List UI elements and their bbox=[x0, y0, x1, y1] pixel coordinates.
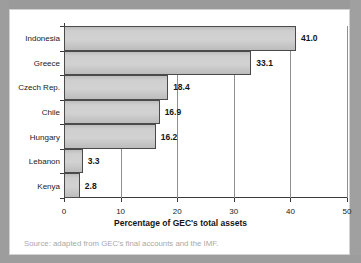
surround-band-top bbox=[0, 0, 361, 9]
gridline-50 bbox=[347, 26, 348, 198]
y-axis-label-indonesia: Indonesia bbox=[25, 34, 60, 43]
bar-row: 3.3 bbox=[64, 149, 347, 174]
bar-value-label: 3.3 bbox=[88, 156, 100, 166]
bar-value-label: 16.9 bbox=[165, 107, 182, 117]
bar-row: 18.4 bbox=[64, 75, 347, 100]
bar-row: 16.9 bbox=[64, 100, 347, 125]
bar-indonesia bbox=[64, 26, 296, 51]
y-axis-label-kenya: Kenya bbox=[37, 181, 60, 190]
x-tick-50 bbox=[347, 198, 348, 202]
bar-value-label: 18.4 bbox=[173, 82, 190, 92]
x-tick-20 bbox=[177, 198, 178, 202]
x-tick-label-50: 50 bbox=[343, 207, 352, 216]
bar-czech-rep bbox=[64, 75, 168, 100]
bar-greece bbox=[64, 51, 251, 76]
x-tick-10 bbox=[121, 198, 122, 202]
bar-row: 33.1 bbox=[64, 51, 347, 76]
y-axis-label-greece: Greece bbox=[34, 58, 60, 67]
x-tick-label-30: 30 bbox=[229, 207, 238, 216]
y-axis-label-lebanon: Lebanon bbox=[29, 157, 60, 166]
x-tick-0 bbox=[64, 198, 65, 202]
x-tick-label-10: 10 bbox=[116, 207, 125, 216]
bar-kenya bbox=[64, 173, 80, 198]
surround-band-right bbox=[350, 0, 361, 263]
y-axis-label-hungary: Hungary bbox=[30, 132, 60, 141]
x-tick-label-20: 20 bbox=[173, 207, 182, 216]
plot-area: 01020304050 41.033.118.416.916.23.32.8 bbox=[64, 26, 347, 198]
y-axis-label-chile: Chile bbox=[42, 108, 60, 117]
x-tick-30 bbox=[234, 198, 235, 202]
bar-value-label: 16.2 bbox=[161, 132, 178, 142]
chart-screenshot: IndonesiaGreeceCzech Rep.ChileHungaryLeb… bbox=[0, 0, 361, 263]
bar-value-label: 2.8 bbox=[85, 181, 97, 191]
bar-hungary bbox=[64, 124, 156, 149]
x-tick-label-40: 40 bbox=[286, 207, 295, 216]
chart-card: IndonesiaGreeceCzech Rep.ChileHungaryLeb… bbox=[9, 9, 350, 255]
x-axis-title: Percentage of GEC's total assets bbox=[10, 218, 351, 228]
bar-row: 2.8 bbox=[64, 173, 347, 198]
surround-band-left bbox=[0, 0, 9, 263]
bar-chile bbox=[64, 100, 160, 125]
source-note: Source: adapted from GEC's final account… bbox=[24, 239, 218, 248]
y-tick-7 bbox=[60, 198, 64, 199]
bar-row: 41.0 bbox=[64, 26, 347, 51]
x-tick-label-0: 0 bbox=[62, 207, 66, 216]
bar-row: 16.2 bbox=[64, 124, 347, 149]
bar-value-label: 41.0 bbox=[301, 33, 318, 43]
y-axis-label-czech-rep: Czech Rep. bbox=[18, 83, 60, 92]
x-tick-40 bbox=[290, 198, 291, 202]
bar-chart-figure: IndonesiaGreeceCzech Rep.ChileHungaryLeb… bbox=[10, 10, 351, 256]
bar-lebanon bbox=[64, 149, 83, 174]
surround-band-bottom bbox=[0, 255, 361, 263]
y-axis-category-labels: IndonesiaGreeceCzech Rep.ChileHungaryLeb… bbox=[10, 26, 64, 198]
bar-value-label: 33.1 bbox=[256, 58, 273, 68]
